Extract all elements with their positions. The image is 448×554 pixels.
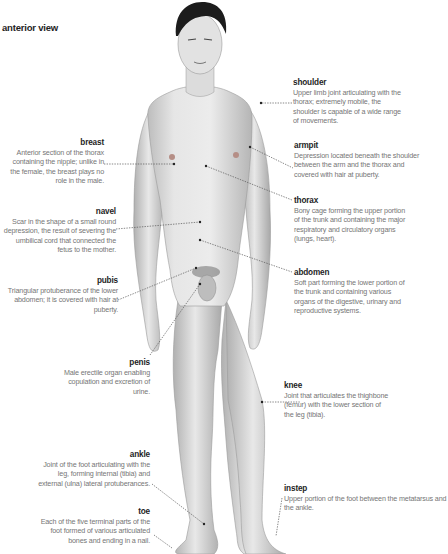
label-penis: penis Male erectile organ enabling copul… [50, 358, 150, 396]
term-navel: navel [2, 207, 116, 217]
term-penis: penis [50, 358, 150, 368]
desc-breast: Anterior section of the thorax containin… [2, 148, 104, 186]
term-breast: breast [2, 138, 104, 148]
legs [173, 300, 286, 554]
label-instep: instep Upper portion of the foot between… [284, 484, 448, 513]
label-thorax: thorax Bony cage forming the upper porti… [294, 196, 412, 244]
term-abdomen: abdomen [294, 268, 408, 278]
desc-toe: Each of the five terminal parts of the f… [36, 517, 150, 545]
term-instep: instep [284, 484, 448, 494]
desc-penis: Male erectile organ enabling copulation … [50, 368, 150, 396]
desc-armpit: Depression located beneath the shoulder … [294, 151, 420, 179]
label-toe: toe Each of the five terminal parts of t… [36, 507, 150, 545]
term-shoulder: shoulder [293, 78, 405, 88]
desc-instep: Upper portion of the foot between the me… [284, 494, 448, 513]
label-armpit: armpit Depression located beneath the sh… [294, 141, 420, 179]
term-ankle: ankle [36, 450, 150, 460]
head [176, 2, 226, 74]
term-thorax: thorax [294, 196, 412, 206]
term-pubis: pubis [2, 276, 118, 286]
term-toe: toe [36, 507, 150, 517]
desc-ankle: Joint of the foot articulating with the … [36, 460, 150, 488]
term-armpit: armpit [294, 141, 420, 151]
label-abdomen: abdomen Soft part forming the lower port… [294, 268, 408, 316]
desc-abdomen: Soft part forming the lower portion of t… [294, 278, 408, 316]
label-shoulder: shoulder Upper limb joint articulating w… [293, 78, 405, 126]
label-ankle: ankle Joint of the foot articulating wit… [36, 450, 150, 488]
desc-thorax: Bony cage forming the upper portion of t… [294, 206, 412, 244]
label-pubis: pubis Triangular protuberance of the low… [2, 276, 118, 314]
label-knee: knee Joint that articulates the thighbon… [284, 381, 390, 419]
desc-navel: Scar in the shape of a small round depre… [2, 217, 116, 255]
desc-knee: Joint that articulates the thighbone (fe… [284, 391, 390, 419]
label-breast: breast Anterior section of the thorax co… [2, 138, 104, 186]
desc-pubis: Triangular protuberance of the lower abd… [2, 286, 118, 314]
desc-shoulder: Upper limb joint articulating with the t… [293, 88, 405, 126]
label-navel: navel Scar in the shape of a small round… [2, 207, 116, 255]
term-knee: knee [284, 381, 390, 391]
